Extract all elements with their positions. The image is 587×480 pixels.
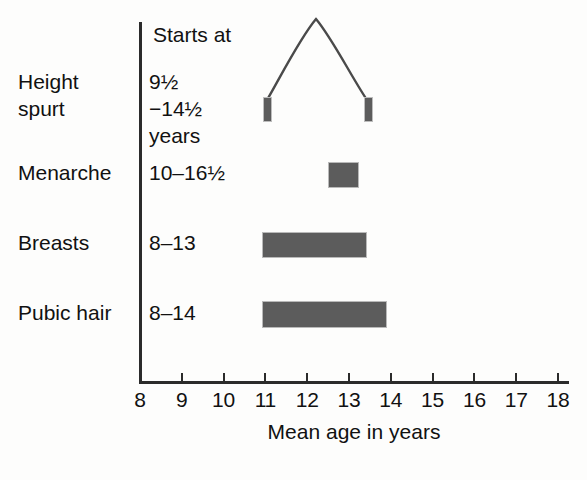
puberty-timeline-chart: Starts at Height spurt 9½ −14½ years Men…: [0, 0, 587, 480]
x-axis-tick-12: [306, 373, 308, 382]
row-label-pubic-hair: Pubic hair: [0, 299, 132, 326]
x-axis-tick-18: [557, 373, 559, 382]
x-axis-title: Mean age in years: [139, 419, 569, 445]
x-axis-line: [139, 381, 569, 384]
x-axis-tick-label-8: 8: [120, 387, 160, 413]
x-axis-tick-label-16: 16: [454, 387, 494, 413]
x-axis-tick-15: [432, 373, 434, 382]
x-axis-tick-label-18: 18: [538, 387, 578, 413]
row-label-height-spurt: Height spurt: [0, 68, 132, 122]
bar-menarche: [328, 162, 359, 188]
x-axis-tick-8: [139, 373, 141, 382]
column-header-starts-at: Starts at: [153, 21, 231, 48]
bar-breasts: [262, 232, 367, 258]
x-axis-tick-16: [473, 373, 475, 382]
starts-value-menarche: 10–16½: [149, 159, 225, 186]
x-axis-tick-label-13: 13: [329, 387, 369, 413]
x-axis-tick-label-17: 17: [496, 387, 536, 413]
x-axis-tick-11: [264, 373, 266, 382]
height-spurt-start-marker: [263, 97, 272, 122]
x-axis-tick-label-15: 15: [413, 387, 453, 413]
row-label-menarche: Menarche: [0, 159, 132, 186]
x-axis-tick-label-11: 11: [245, 387, 285, 413]
x-axis-tick-label-14: 14: [371, 387, 411, 413]
x-axis-tick-13: [348, 373, 350, 382]
x-axis-tick-label-9: 9: [162, 387, 202, 413]
x-axis-tick-label-12: 12: [287, 387, 327, 413]
x-axis-tick-10: [223, 373, 225, 382]
table-divider-line: [139, 22, 142, 384]
x-axis-tick-label-10: 10: [204, 387, 244, 413]
starts-value-pubic-hair: 8–14: [149, 299, 196, 326]
row-label-breasts: Breasts: [0, 229, 132, 256]
bar-pubic-hair: [262, 301, 387, 328]
starts-value-breasts: 8–13: [149, 229, 196, 256]
starts-value-height-spurt: 9½ −14½ years: [149, 68, 202, 149]
x-axis-tick-14: [390, 373, 392, 382]
x-axis-tick-9: [181, 373, 183, 382]
height-spurt-end-marker: [364, 97, 373, 122]
x-axis-tick-17: [515, 373, 517, 382]
